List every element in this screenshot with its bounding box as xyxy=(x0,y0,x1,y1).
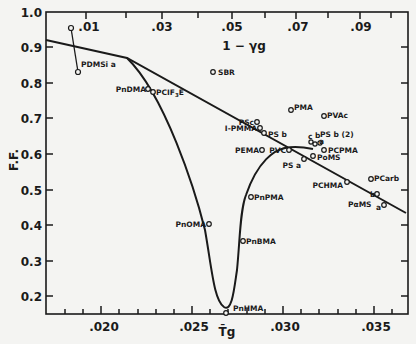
point-pnbma xyxy=(241,239,246,244)
y-axis-ticks xyxy=(46,47,408,296)
bottom-tick-label: .025 xyxy=(179,320,209,334)
label-pndma: PnDMA xyxy=(116,85,147,94)
point-ps-a xyxy=(302,157,307,162)
point-pnoma xyxy=(207,222,212,227)
point-pcif3e xyxy=(151,90,156,95)
point-pdmsi-a xyxy=(76,70,81,75)
point-pema xyxy=(260,148,265,153)
label-i-pmma: I-PMMA xyxy=(225,124,257,133)
label-pma: PMA xyxy=(294,103,313,112)
label-pcarb: PCarb xyxy=(374,174,400,183)
label-pchma: PCHMA xyxy=(312,181,343,190)
point-ps-b xyxy=(262,131,267,136)
y-tick-label: 0.6 xyxy=(21,148,42,162)
label-pema: PEMA xyxy=(235,146,259,155)
top-tick-label: .03 xyxy=(151,20,172,34)
point-pams-b xyxy=(375,192,380,197)
point-pchma xyxy=(345,180,350,185)
label-pdmsi-a: PDMSi a xyxy=(81,60,116,69)
label-pnoma: PnOMA xyxy=(176,220,207,229)
point-pvac xyxy=(322,114,327,119)
label-pvac: PVAc xyxy=(327,111,348,120)
y-axis-labels: 1.0 0.9 0.8 0.7 0.6 0.5 0.4 0.3 0.2 xyxy=(21,6,42,304)
point-ps-b2 xyxy=(313,142,317,146)
top-tick-label: .05 xyxy=(221,20,242,34)
bottom-axis-title: T̄g xyxy=(219,324,236,339)
top-axis-ticks xyxy=(86,12,391,19)
label-ps-a: PS a xyxy=(282,161,301,170)
label-a: a xyxy=(319,137,324,146)
top-axis-labels: .01 .03 .05 .07 .09 xyxy=(78,20,371,34)
y-axis-title: F.F. xyxy=(7,149,21,171)
u-shaped-curve xyxy=(127,58,313,308)
label-a-pmma: PS b (2) xyxy=(320,130,354,139)
top-tick-label: .01 xyxy=(78,20,99,34)
label-pnbma: PnBMA xyxy=(246,237,276,246)
point-pams-a xyxy=(382,203,387,208)
bottom-tick-label: .030 xyxy=(270,320,300,334)
y-tick-label: 0.4 xyxy=(21,219,42,233)
label-pvc: PVC xyxy=(269,146,286,155)
bottom-tick-label: .035 xyxy=(361,320,391,334)
point-poms xyxy=(311,154,316,159)
point-pvc xyxy=(287,148,292,153)
point-sbr xyxy=(211,70,216,75)
point-pma xyxy=(289,108,294,113)
y-tick-label: 0.5 xyxy=(21,184,42,198)
label-pcif3e: PCIF3E xyxy=(156,88,184,98)
y-tick-label: 0.2 xyxy=(21,290,42,304)
y-tick-label: 0.3 xyxy=(21,255,42,269)
y-tick-label: 1.0 xyxy=(21,6,42,20)
label-pams: PαMS xyxy=(348,200,372,209)
top-axis-title: 1 − γg xyxy=(222,39,266,53)
point-pcarb xyxy=(369,177,374,182)
point-labels: PDMSi a PnDMA PCIF3E SBR PMA PVAc PSc I-… xyxy=(81,60,400,313)
point-pdmsi-upper xyxy=(69,26,74,31)
bottom-tick-label: .020 xyxy=(89,320,119,334)
label-c: c xyxy=(308,132,312,141)
chart-canvas: 1.0 0.9 0.8 0.7 0.6 0.5 0.4 0.3 0.2 F.F.… xyxy=(0,0,416,344)
y-tick-label: 0.7 xyxy=(21,112,42,126)
y-tick-label: 0.8 xyxy=(21,77,42,91)
point-i-pmma xyxy=(258,126,263,131)
pdmsi-connector xyxy=(71,28,78,72)
top-tick-label: .07 xyxy=(287,20,308,34)
label-sbr: SBR xyxy=(218,68,235,77)
point-pndma xyxy=(146,87,151,92)
point-pnhma xyxy=(224,311,229,316)
y-tick-label: 0.9 xyxy=(21,41,42,55)
bottom-axis-labels: .020 .025 .030 .035 xyxy=(89,320,391,334)
label-pnpma: PnPMA xyxy=(254,193,284,202)
label-pnhma: PnHMA xyxy=(233,304,264,313)
label-a-pams: a xyxy=(376,203,381,212)
label-poms: PoMS xyxy=(317,153,341,162)
plot-frame xyxy=(46,12,408,314)
label-ps-b: PS b xyxy=(268,130,288,139)
point-pnpma xyxy=(249,195,254,200)
top-tick-label: .09 xyxy=(350,20,371,34)
label-b-pams: b xyxy=(370,190,376,199)
point-pcpma xyxy=(322,148,327,153)
